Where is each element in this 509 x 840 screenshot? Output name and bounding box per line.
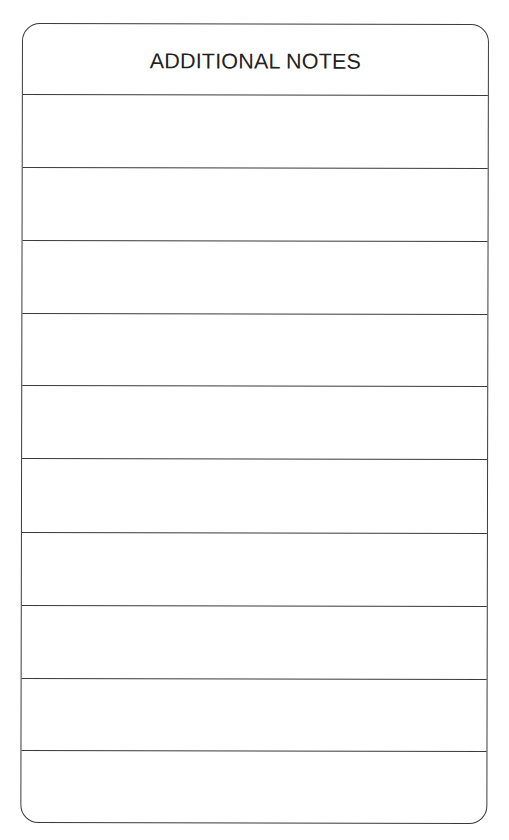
note-line-5[interactable] bbox=[22, 386, 487, 460]
note-line-8[interactable] bbox=[22, 606, 487, 680]
note-line-9[interactable] bbox=[21, 679, 486, 752]
notes-header: ADDITIONAL NOTES bbox=[23, 24, 488, 96]
note-line-1[interactable] bbox=[23, 95, 488, 169]
note-line-10[interactable] bbox=[21, 751, 486, 824]
note-line-7[interactable] bbox=[22, 533, 487, 607]
note-line-4[interactable] bbox=[22, 314, 487, 387]
note-line-2[interactable] bbox=[23, 168, 488, 242]
notes-card: ADDITIONAL NOTES bbox=[20, 23, 489, 824]
note-line-6[interactable] bbox=[22, 459, 487, 534]
note-line-3[interactable] bbox=[22, 241, 487, 315]
notes-title: ADDITIONAL NOTES bbox=[150, 49, 362, 74]
